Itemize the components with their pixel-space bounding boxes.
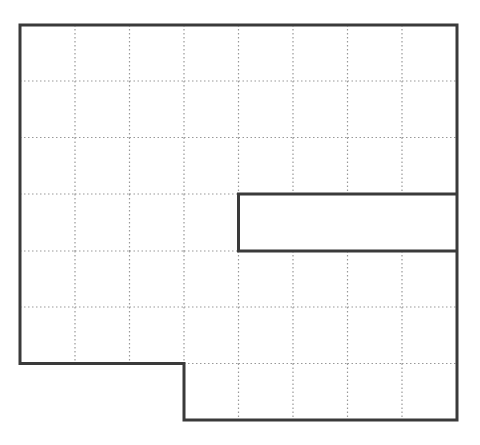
grid-polygon-diagram: [0, 0, 480, 445]
polygon-outline: [20, 25, 457, 420]
